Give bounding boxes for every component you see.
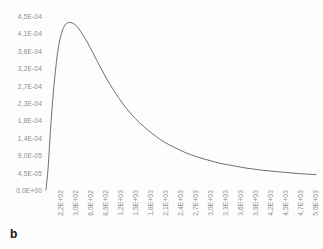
y-tick-label: 4,5E-04	[0, 13, 42, 20]
y-tick-label: 3,6E-04	[0, 47, 42, 54]
y-tick-label: 2,7E-04	[0, 82, 42, 89]
y-tick-label: 4,1E-04	[0, 30, 42, 37]
x-tick-label-text: 5,0E+03	[312, 190, 319, 216]
x-tick-label: 3,0E+02	[72, 190, 79, 216]
y-tick-label: 2,3E-04	[0, 100, 42, 107]
x-tick-label: 5,0E+03	[312, 190, 319, 216]
x-tick-label: 4,5E+03	[282, 190, 289, 216]
x-tick-label-text: 2,4E+03	[177, 190, 184, 216]
x-tick-label: 3,6E+03	[237, 190, 244, 216]
x-tick-label-text: 2,2E+02	[57, 190, 64, 216]
x-tick-label: 4,2E+03	[267, 190, 274, 216]
x-tick-label-text: 3,9E+03	[252, 190, 259, 216]
y-tick-label: 1,4E-04	[0, 134, 42, 141]
x-axis: 2,2E+023,0E+026,0E+028,9E+021,2E+031,5E+…	[46, 190, 316, 236]
x-tick-label: 1,8E+03	[147, 190, 154, 216]
y-tick-label: 9,0E-05	[0, 152, 42, 159]
x-tick-label: 2,1E+03	[162, 190, 169, 216]
y-tick-label: 4,5E-05	[0, 169, 42, 176]
x-tick-label-text: 1,2E+03	[117, 190, 124, 216]
figure-panel: 4,5E-044,1E-043,6E-043,2E-042,7E-042,3E-…	[0, 0, 323, 249]
x-tick-label: 6,0E+02	[87, 190, 94, 216]
x-tick-label-text: 3,6E+03	[237, 190, 244, 216]
x-tick-label: 3,9E+03	[252, 190, 259, 216]
x-tick-label: 2,2E+02	[57, 190, 64, 216]
x-tick-label-text: 2,1E+03	[162, 190, 169, 216]
x-tick-label-text: 4,5E+03	[282, 190, 289, 216]
x-tick-label: 4,7E+03	[297, 190, 304, 216]
x-tick-label: 1,5E+03	[132, 190, 139, 216]
panel-label: b	[10, 227, 17, 241]
series-path	[46, 22, 316, 190]
y-tick-label: 0,0E+00	[0, 187, 42, 194]
x-tick-label-text: 3,0E+03	[207, 190, 214, 216]
x-tick-label-text: 6,0E+02	[87, 190, 94, 216]
x-tick-label-text: 2,7E+03	[192, 190, 199, 216]
x-tick-label: 8,9E+02	[102, 190, 109, 216]
x-tick-label-text: 1,8E+03	[147, 190, 154, 216]
x-tick-label: 2,4E+03	[177, 190, 184, 216]
x-tick-label: 3,3E+03	[222, 190, 229, 216]
x-tick-label-text: 8,9E+02	[102, 190, 109, 216]
x-tick-label-text: 3,0E+02	[72, 190, 79, 216]
x-tick-label: 1,2E+03	[117, 190, 124, 216]
x-tick-label: 2,7E+03	[192, 190, 199, 216]
x-tick-label: 3,0E+03	[207, 190, 214, 216]
x-tick-label-text: 4,7E+03	[297, 190, 304, 216]
y-axis: 4,5E-044,1E-043,6E-043,2E-042,7E-042,3E-…	[0, 16, 42, 190]
plot-area	[46, 16, 316, 190]
x-tick-label-text: 3,3E+03	[222, 190, 229, 216]
line-series	[46, 16, 316, 190]
y-tick-label: 1,8E-04	[0, 117, 42, 124]
y-tick-label: 3,2E-04	[0, 65, 42, 72]
x-tick-label-text: 1,5E+03	[132, 190, 139, 216]
x-tick-label-text: 4,2E+03	[267, 190, 274, 216]
